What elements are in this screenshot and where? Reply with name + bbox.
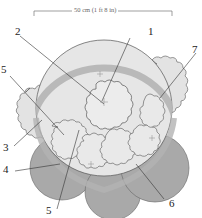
callout-1: 1	[148, 26, 154, 37]
callout-4: 4	[3, 164, 9, 175]
planting-diagram: 50 cm (1 ft 8 in) 1 2 3 4 5 5 6 7	[0, 0, 202, 218]
callout-3: 3	[3, 142, 9, 153]
callout-5-bottom: 5	[46, 205, 52, 216]
callout-6: 6	[169, 198, 175, 209]
callout-7: 7	[192, 44, 198, 55]
dimension-label: 50 cm (1 ft 8 in)	[72, 7, 118, 14]
callout-2: 2	[15, 26, 21, 37]
callout-5-left: 5	[1, 64, 7, 75]
diagram-canvas	[0, 0, 202, 218]
